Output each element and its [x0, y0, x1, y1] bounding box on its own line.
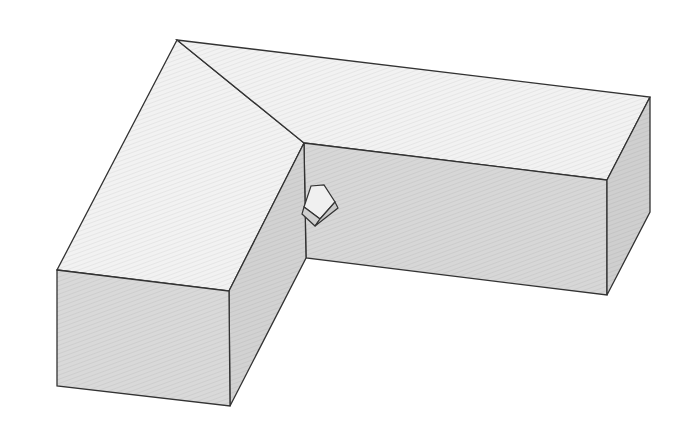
- l-shaped-block-diagram: [0, 0, 700, 439]
